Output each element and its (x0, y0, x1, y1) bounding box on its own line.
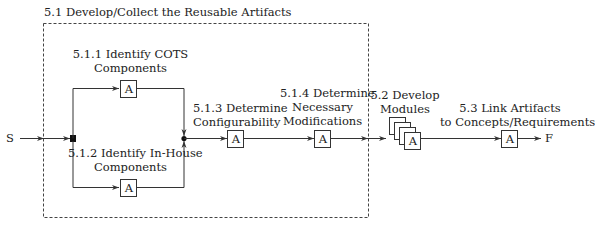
label-513-line1: 5.1.3 Determine (193, 101, 278, 115)
box-52-glyph: A (405, 134, 421, 148)
start-node: S (6, 131, 14, 145)
label-514-line3: Modifications (280, 114, 365, 128)
label-53-line2: to Concepts/Requirements (440, 115, 580, 129)
label-514-line1: 5.1.4 Determine (280, 86, 365, 100)
label-52: 5.2 Develop Modules (370, 88, 440, 116)
box-53-glyph: A (502, 132, 518, 146)
label-513: 5.1.3 Determine Configurability (193, 101, 278, 129)
label-511-line2: Components (68, 61, 193, 75)
box-512-glyph: A (121, 181, 137, 195)
label-514: 5.1.4 Determine Necessary Modifications (280, 86, 365, 128)
label-511: 5.1.1 Identify COTS Components (68, 47, 193, 75)
box-514-glyph: A (315, 132, 331, 146)
label-52-line1: 5.2 Develop (370, 88, 440, 102)
label-512-line1: 5.1.2 Identify In-House (68, 146, 193, 160)
label-53-line1: 5.3 Link Artifacts (440, 101, 580, 115)
label-513-line2: Configurability (193, 115, 278, 129)
edge-from-511 (137, 89, 184, 137)
group-title: 5.1 Develop/Collect the Reusable Artifac… (44, 5, 292, 19)
label-512: 5.1.2 Identify In-House Components (68, 146, 193, 174)
label-53: 5.3 Link Artifacts to Concepts/Requireme… (440, 101, 580, 129)
edge-to-511 (73, 89, 119, 139)
box-513-glyph: A (228, 132, 244, 146)
label-511-line1: 5.1.1 Identify COTS (68, 47, 193, 61)
label-512-line2: Components (68, 160, 193, 174)
label-514-line2: Necessary (280, 100, 365, 114)
finish-node: F (545, 131, 553, 145)
label-52-line2: Modules (370, 102, 440, 116)
box-511-glyph: A (121, 82, 137, 96)
